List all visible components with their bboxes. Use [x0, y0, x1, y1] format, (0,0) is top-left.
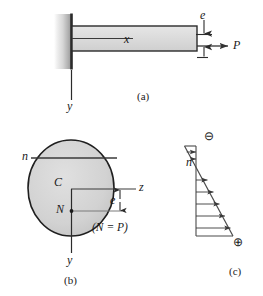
panel-a-eccentricity-label: e — [200, 9, 205, 21]
panel-b-neutral-axis-label: n — [22, 150, 28, 162]
panel-a-axis-x-label: x — [124, 33, 129, 45]
panel-b-axis-y-label: y — [67, 254, 72, 266]
panel-a-group — [54, 14, 228, 101]
panel-b-force-point-label: N — [56, 203, 64, 215]
panel-a-force-label: P — [233, 39, 240, 51]
panel-c-neutral-axis-label: n — [186, 156, 192, 168]
panel-c-compression-sign-icon: ⊖ — [204, 130, 214, 142]
panel-b-group — [28, 140, 136, 253]
panel-b-eccentricity-label: e — [110, 194, 115, 206]
panel-b-axis-z-label: z — [139, 181, 144, 193]
panel-a-caption: (a) — [137, 91, 149, 102]
panel-a-axis-y-label: y — [67, 100, 72, 112]
panel-b-caption: (b) — [64, 275, 77, 286]
figure-canvas — [0, 0, 263, 296]
panel-c-caption: (c) — [229, 266, 241, 277]
panel-b-centroid-label: C — [54, 176, 62, 188]
panel-c-tension-sign-icon: ⊕ — [233, 236, 243, 248]
load-point-marker — [70, 209, 74, 213]
figure-root: x e P y (a) n C z N e y (N = P) (b) n ⊖ … — [0, 0, 263, 296]
wall-support — [54, 14, 71, 69]
panel-b-force-equation: (N = P) — [92, 222, 128, 234]
